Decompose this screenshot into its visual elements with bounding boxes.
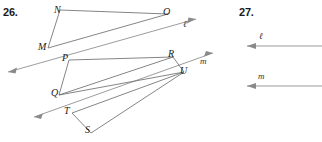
problem-27-figure xyxy=(0,0,322,142)
line-label-l-27: ℓ xyxy=(259,32,263,41)
line-l-27-left-arrowhead xyxy=(247,43,256,49)
line-m-27-left-arrowhead xyxy=(247,83,256,89)
line-m-27 xyxy=(247,83,322,89)
line-label-m-27: m xyxy=(258,72,265,81)
line-l-27 xyxy=(247,43,322,49)
worksheet-page: 26. N O M P R U Q T S xyxy=(0,0,322,142)
